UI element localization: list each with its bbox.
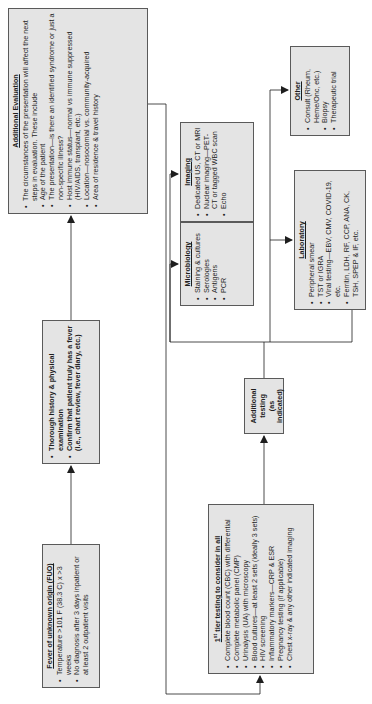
fuo-box: Fever of unknown origin (FUO) Temperatur…: [42, 544, 100, 688]
additional-evaluation-title: Additional Evaluation: [12, 13, 21, 209]
other-box: Other Consult (Rheum, Heme/Onc, etc.) Bi…: [290, 46, 350, 136]
laboratory-title: Laboratory: [298, 175, 307, 305]
evaluation-factor: Host immune status—normal vs immune supp…: [66, 13, 84, 200]
additional-evaluation-list: The circumstances of the presentation wi…: [22, 13, 40, 209]
first-tier-testing-box: 1st tier testing to consider in all Comp…: [208, 504, 314, 674]
imaging-item: Nuclear imaging—PET-CT or tagged WBC sca…: [203, 127, 221, 209]
first-tier-test: Chest x-ray & any other indicated imagin…: [286, 509, 295, 661]
first-tier-tests-list: Complete blood count (CBC) with differen…: [224, 509, 294, 669]
microbiology-item: PCR: [220, 227, 229, 293]
first-tier-title-text: tier testing to consider in all: [213, 536, 222, 634]
evaluation-intro: The circumstances of the presentation wi…: [22, 13, 40, 201]
evaluation-factor: Area of residence & travel history: [92, 13, 101, 200]
fuo-criterion: No diagnosis after 3 days inpatient or a…: [73, 549, 91, 675]
fuo-flowchart: Fever of unknown origin (FUO) Temperatur…: [0, 0, 372, 704]
first-tier-title-number: 1: [213, 638, 222, 642]
evaluation-factor: The presentation—is there an identified …: [48, 13, 66, 200]
additional-testing-line3: (as indicated): [268, 383, 286, 429]
microbiology-list: Staining & cultures Serologies Antigens …: [194, 227, 229, 301]
imaging-title: Imaging: [184, 127, 193, 217]
other-item: Therapeutic trial: [330, 51, 339, 123]
additional-testing-box: Additional testing (as indicated): [244, 378, 284, 434]
additional-evaluation-box: Additional Evaluation The circumstances …: [8, 8, 148, 214]
other-title: Other: [294, 51, 303, 131]
history-exam-box: Thorough history & physical examination …: [42, 320, 100, 464]
laboratory-box: Laboratory Peripheral smear TST or IGRA …: [294, 170, 366, 310]
laboratory-item: Ferritin, LDH, RF, CCP, ANA, CK, TSH, SP…: [343, 175, 361, 297]
first-tier-title: 1st tier testing to consider in all: [212, 509, 223, 669]
history-list: Thorough history & physical examination …: [48, 325, 83, 459]
imaging-list: Dedicated US, CT or MRI Nuclear imaging—…: [194, 127, 229, 217]
microbiology-box: Microbiology Staining & cultures Serolog…: [180, 222, 254, 306]
laboratory-item: Viral testing—EBV, CMV, COVID-19, etc.: [325, 175, 343, 297]
imaging-box: Imaging Dedicated US, CT or MRI Nuclear …: [180, 122, 254, 222]
evaluation-factors-list: Age of the patient The presentation—is t…: [39, 13, 100, 209]
other-item: Consult (Rheum, Heme/Onc, etc.): [304, 51, 322, 123]
imaging-item: Echo: [220, 127, 229, 209]
microbiology-title: Microbiology: [184, 227, 193, 301]
other-list: Consult (Rheum, Heme/Onc, etc.) Biopsy T…: [304, 51, 339, 131]
history-item: Thorough history & physical examination: [48, 325, 66, 451]
laboratory-list: Peripheral smear TST or IGRA Viral testi…: [308, 175, 361, 305]
first-tier-title-sup: st: [212, 634, 218, 638]
history-item: Confirm that patient truly has a fever (…: [66, 325, 84, 451]
fuo-criterion: Temperature >101 F (38.3 C) x >3 weeks: [56, 549, 74, 675]
fuo-criteria-list: Temperature >101 F (38.3 C) x >3 weeks N…: [56, 549, 91, 683]
fuo-title: Fever of unknown origin (FUO): [46, 549, 55, 683]
